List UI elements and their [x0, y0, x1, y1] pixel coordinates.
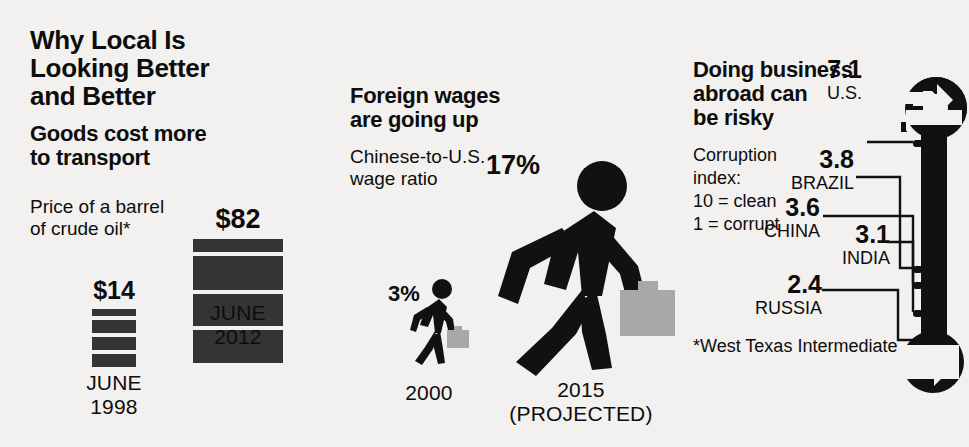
index-country-india: INDIA	[810, 248, 890, 268]
index-value-russia: 2.4	[730, 272, 822, 297]
section-heading: Why Local Is Looking Better and Better	[30, 26, 280, 110]
bar-1998-year: 1998	[44, 395, 184, 419]
walking-person-icon	[490, 156, 675, 381]
index-country-china: CHINA	[732, 221, 820, 241]
wages-2000-label: 2000	[379, 381, 479, 405]
infographic-root: Why Local Is Looking Better and Better G…	[0, 0, 969, 447]
wages-2015-note: (PROJECTED)	[506, 402, 656, 426]
index-value-india: 3.1	[810, 222, 890, 247]
index-country-russia: RUSSIA	[730, 298, 822, 318]
bar-1998-value: $14	[92, 276, 136, 305]
pictogram-2000: 3% 2000	[395, 275, 475, 375]
bar-segment	[193, 256, 283, 290]
index-entry-india: 3.1 INDIA	[810, 222, 890, 268]
bar-2012-year: 2012	[168, 325, 308, 349]
bar-2012-value: $82	[193, 204, 283, 235]
panel-foreign-wages: Foreign wages are going up Chinese-to-U.…	[350, 0, 680, 447]
index-entry-brazil: 3.8 BRAZIL	[768, 147, 854, 193]
index-entry-us: 7.1 U.S.	[790, 57, 862, 103]
bar-1998-body	[92, 309, 136, 367]
bar-segment	[92, 354, 136, 367]
wages-2015-value: 17%	[486, 150, 540, 181]
index-value-china: 3.6	[732, 195, 820, 220]
index-entry-russia: 2.4 RUSSIA	[730, 272, 822, 318]
bar-1998-label: JUNE 1998	[44, 371, 184, 419]
bar-1998: $14 JUNE 1998	[92, 309, 136, 367]
wages-heading: Foreign wages are going up	[350, 84, 600, 132]
index-country-us: U.S.	[790, 83, 862, 103]
index-value-us: 7.1	[790, 57, 862, 82]
index-country-brazil: BRAZIL	[768, 173, 854, 193]
pictogram-2015: 17% 2015 (PROJECTED)	[490, 156, 675, 381]
index-entry-china: 3.6 CHINA	[732, 195, 820, 241]
wages-2015-label: 2015 (PROJECTED)	[506, 378, 656, 426]
bar-2012-label: JUNE 2012	[168, 301, 308, 349]
footnote: *West Texas Intermediate	[693, 336, 897, 357]
bar-segment	[193, 239, 283, 252]
bar-segment	[92, 320, 136, 333]
leader-russia	[822, 290, 913, 340]
bar-segment	[92, 337, 136, 350]
bar-2012: $82 JUNE 2012	[193, 239, 283, 367]
wages-2015-year: 2015	[506, 378, 656, 402]
bar-2012-period: JUNE	[168, 301, 308, 325]
panel-oil-price: Why Local Is Looking Better and Better G…	[22, 0, 332, 447]
wages-2000-value: 3%	[388, 281, 420, 307]
panel-corruption-index: Doing business abroad can be risky Corru…	[690, 0, 969, 447]
bar-1998-period: JUNE	[44, 371, 184, 395]
index-value-brazil: 3.8	[768, 147, 854, 172]
bar-segment	[92, 309, 136, 316]
oil-heading: Goods cost more to transport	[30, 122, 280, 170]
